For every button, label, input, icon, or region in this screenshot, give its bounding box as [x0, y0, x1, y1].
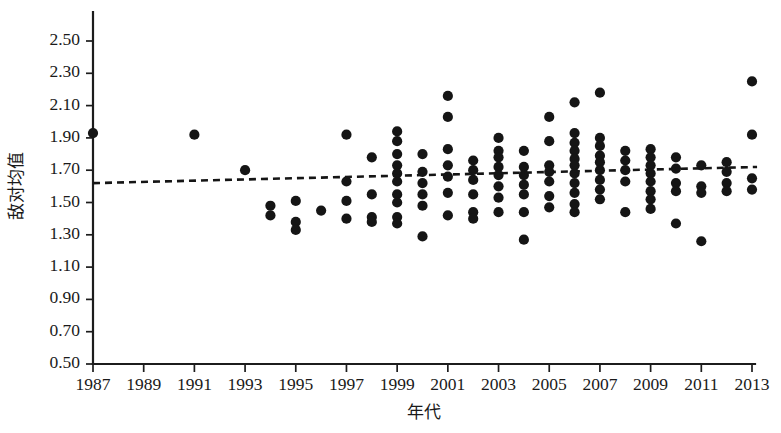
data-point — [569, 168, 579, 178]
data-point — [519, 189, 529, 199]
data-point — [443, 160, 453, 170]
data-point — [595, 141, 605, 151]
y-tick-label: 2.30 — [49, 61, 80, 81]
data-point — [443, 112, 453, 122]
data-point — [392, 176, 402, 186]
y-tick-label: 1.10 — [49, 255, 80, 275]
data-point — [341, 196, 351, 206]
data-point — [417, 149, 427, 159]
data-point — [468, 214, 478, 224]
data-point — [595, 175, 605, 185]
data-point — [88, 128, 98, 138]
y-axis-title: 敌对均值 — [6, 152, 26, 220]
data-point — [519, 146, 529, 156]
scatter-chart: 0.500.700.901.101.301.501.701.902.102.30… — [0, 0, 781, 433]
data-point — [493, 152, 503, 162]
data-point — [265, 201, 275, 211]
data-point — [493, 193, 503, 203]
data-point — [620, 176, 630, 186]
data-point — [392, 126, 402, 136]
data-point — [747, 173, 757, 183]
data-point — [493, 133, 503, 143]
data-point — [569, 207, 579, 217]
data-point — [595, 88, 605, 98]
data-point — [747, 130, 757, 140]
x-tick-label: 2011 — [684, 374, 718, 394]
data-point — [341, 214, 351, 224]
data-point — [417, 189, 427, 199]
data-point — [367, 217, 377, 227]
data-point — [443, 172, 453, 182]
data-point — [646, 194, 656, 204]
data-point — [392, 197, 402, 207]
y-tick-label: 0.70 — [49, 320, 80, 340]
data-point — [417, 178, 427, 188]
y-axis-tick-labels: 0.500.700.901.101.301.501.701.902.102.30… — [49, 29, 80, 372]
data-point — [291, 196, 301, 206]
data-point — [722, 186, 732, 196]
x-tick-label: 2005 — [532, 374, 567, 394]
data-point — [367, 189, 377, 199]
y-tick-label: 0.50 — [49, 352, 80, 372]
x-tick-label: 1989 — [126, 374, 161, 394]
data-point — [468, 175, 478, 185]
data-point — [493, 181, 503, 191]
data-point — [569, 128, 579, 138]
data-point — [189, 130, 199, 140]
x-tick-label: 2013 — [735, 374, 770, 394]
data-point — [620, 146, 630, 156]
data-point — [443, 144, 453, 154]
data-point — [443, 210, 453, 220]
data-point — [367, 152, 377, 162]
y-tick-label: 0.90 — [49, 287, 80, 307]
x-tick-label: 2009 — [633, 374, 668, 394]
x-tick-label: 1987 — [76, 374, 111, 394]
data-point — [544, 176, 554, 186]
data-point — [671, 186, 681, 196]
data-point — [671, 152, 681, 162]
data-point — [544, 202, 554, 212]
data-point — [620, 207, 630, 217]
data-point — [722, 157, 732, 167]
data-point — [544, 112, 554, 122]
data-point — [468, 189, 478, 199]
data-point — [646, 204, 656, 214]
data-point — [671, 218, 681, 228]
y-tick-label: 2.50 — [49, 29, 80, 49]
chart-canvas: 0.500.700.901.101.301.501.701.902.102.30… — [0, 0, 781, 433]
data-point — [696, 188, 706, 198]
data-point — [443, 188, 453, 198]
data-point — [392, 149, 402, 159]
x-tick-label: 1999 — [380, 374, 415, 394]
data-point — [392, 136, 402, 146]
data-point — [316, 205, 326, 215]
data-point — [443, 91, 453, 101]
data-point — [747, 76, 757, 86]
data-point — [569, 97, 579, 107]
y-tick-label: 1.90 — [49, 126, 80, 146]
data-point — [417, 231, 427, 241]
x-axis-ticks — [93, 364, 752, 372]
data-point — [417, 201, 427, 211]
data-point — [493, 207, 503, 217]
y-tick-label: 2.10 — [49, 94, 80, 114]
data-point — [341, 130, 351, 140]
data-point — [569, 178, 579, 188]
data-point — [519, 207, 529, 217]
x-tick-label: 2003 — [481, 374, 516, 394]
data-point — [519, 180, 529, 190]
y-tick-label: 1.50 — [49, 191, 80, 211]
data-point — [595, 194, 605, 204]
data-point — [519, 235, 529, 245]
data-point — [646, 176, 656, 186]
y-tick-label: 1.30 — [49, 223, 80, 243]
x-axis-tick-labels: 1987198919911993199519971999200120032005… — [76, 374, 770, 394]
data-point — [696, 236, 706, 246]
x-tick-label: 2007 — [582, 374, 617, 394]
data-point — [240, 165, 250, 175]
plot-background — [93, 12, 755, 364]
data-point — [544, 191, 554, 201]
data-point — [569, 188, 579, 198]
x-tick-label: 1991 — [177, 374, 212, 394]
x-axis-title: 年代 — [407, 402, 441, 422]
